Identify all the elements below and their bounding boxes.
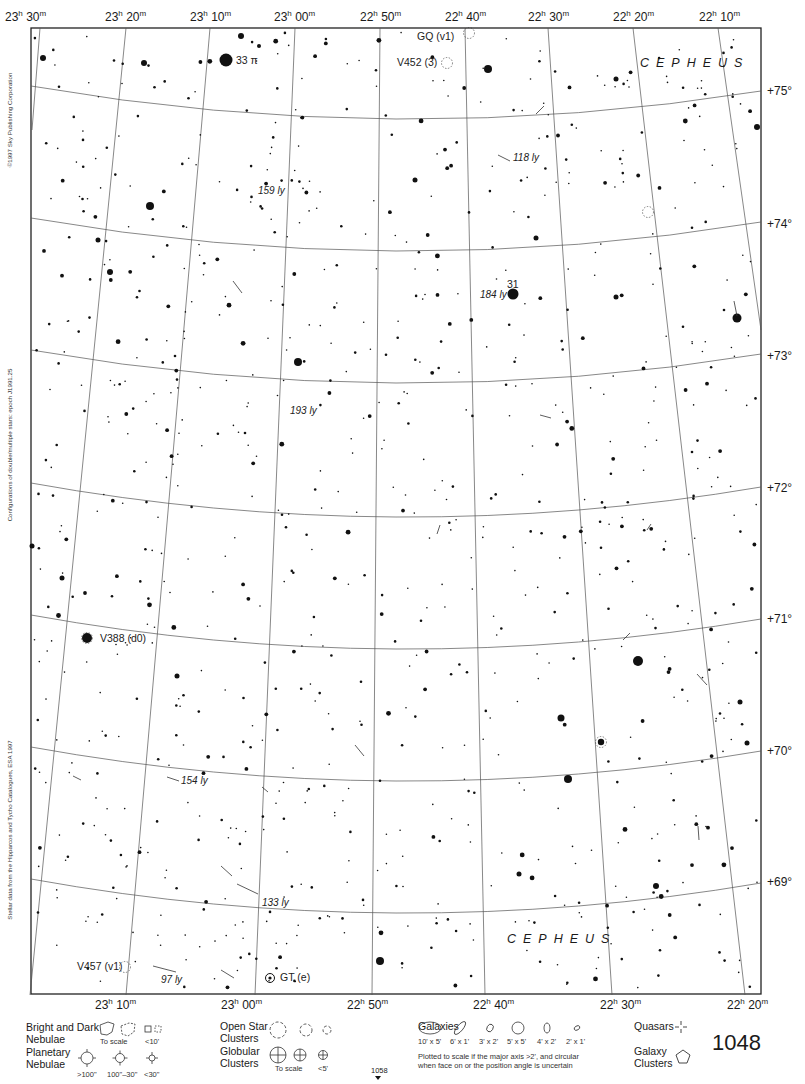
star xyxy=(538,678,540,680)
star xyxy=(348,860,350,862)
star xyxy=(207,625,209,627)
star xyxy=(435,922,438,925)
star xyxy=(482,68,484,70)
star xyxy=(157,934,159,936)
arrow-down-icon[interactable] xyxy=(375,1076,381,1080)
star xyxy=(696,439,699,442)
star xyxy=(57,148,59,150)
star xyxy=(87,198,89,200)
star xyxy=(170,392,172,394)
star xyxy=(406,393,408,395)
star-chart: 23h 30m23h 20m23h 10m23h 00m22h 50m22h 4… xyxy=(0,0,805,1084)
star xyxy=(56,739,58,741)
star xyxy=(61,525,63,527)
star xyxy=(400,32,402,34)
star xyxy=(610,472,613,475)
star xyxy=(517,701,519,703)
star xyxy=(124,412,128,416)
star xyxy=(457,293,459,295)
star xyxy=(674,824,676,826)
object-label: 118 ly xyxy=(513,152,540,163)
star xyxy=(397,321,399,323)
star xyxy=(735,143,737,145)
legend-galaxy-clusters-title: Galaxy xyxy=(634,1045,667,1057)
star xyxy=(319,191,321,193)
star xyxy=(596,968,598,970)
star xyxy=(568,183,570,185)
star xyxy=(485,710,488,713)
planetary-nebula-tick xyxy=(113,1051,128,1066)
star xyxy=(284,32,287,35)
ra-label-bottom: 22h 20m xyxy=(727,997,769,1012)
star xyxy=(301,645,303,647)
star xyxy=(566,983,568,985)
star xyxy=(51,467,53,469)
star xyxy=(695,815,697,817)
star xyxy=(217,433,220,436)
ra-label-top: 23h 00m xyxy=(274,9,316,24)
star xyxy=(282,304,285,307)
star xyxy=(160,944,162,946)
legend-nebulae-title: Bright and Dark xyxy=(26,1021,100,1033)
star xyxy=(65,859,67,861)
star xyxy=(177,453,179,455)
star xyxy=(627,501,630,504)
star xyxy=(486,346,488,348)
ra-grid-line xyxy=(465,28,485,995)
ra-label-top: 23h 20m xyxy=(105,9,147,24)
star xyxy=(183,744,185,746)
galaxy-size-label: 4' x 2' xyxy=(537,1037,557,1046)
star xyxy=(296,967,298,969)
constellation-name: CEPHEUS xyxy=(507,932,616,946)
star xyxy=(86,661,88,663)
star xyxy=(381,594,384,597)
star xyxy=(106,808,108,810)
ra-grid-line xyxy=(633,28,745,995)
star xyxy=(581,916,583,918)
object-label: 31 xyxy=(507,278,519,290)
ra-label-bottom: 22h 40m xyxy=(473,997,515,1012)
star xyxy=(380,612,384,616)
star xyxy=(292,272,296,276)
star xyxy=(38,547,41,550)
star xyxy=(452,485,455,488)
star xyxy=(108,421,110,423)
star xyxy=(419,119,424,124)
star xyxy=(147,64,150,67)
star xyxy=(538,138,540,140)
star xyxy=(166,340,168,342)
star xyxy=(448,521,451,524)
star xyxy=(174,355,177,358)
star xyxy=(304,802,306,804)
star xyxy=(494,493,497,496)
ra-label-top: 22h 30m xyxy=(528,9,570,24)
star xyxy=(598,957,600,959)
star xyxy=(493,616,495,618)
star xyxy=(185,311,187,313)
star xyxy=(363,321,365,323)
star xyxy=(525,594,527,596)
star xyxy=(233,425,235,427)
star xyxy=(714,612,717,615)
star xyxy=(694,822,698,826)
star xyxy=(496,634,498,636)
star xyxy=(379,779,382,782)
star xyxy=(152,255,155,258)
legend-text: <30" xyxy=(144,1070,160,1079)
star xyxy=(728,641,730,643)
star xyxy=(653,400,655,402)
star xyxy=(399,830,401,832)
star xyxy=(104,734,107,737)
star xyxy=(114,173,117,176)
star xyxy=(651,838,653,840)
adjacent-page-reference[interactable]: 1058 xyxy=(371,1066,388,1075)
star xyxy=(608,524,610,526)
star xyxy=(697,87,699,89)
star xyxy=(594,275,596,277)
star xyxy=(681,688,684,691)
star xyxy=(629,70,633,74)
star xyxy=(58,85,61,88)
star xyxy=(250,165,253,168)
star xyxy=(286,236,288,238)
star xyxy=(423,459,425,461)
